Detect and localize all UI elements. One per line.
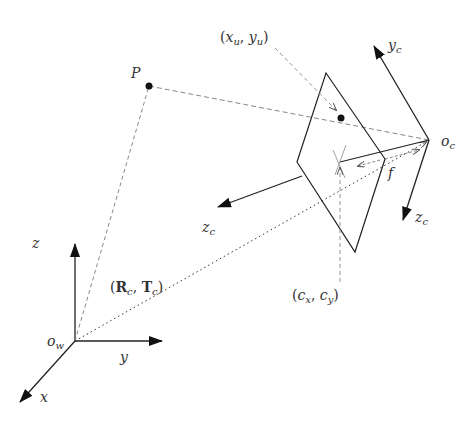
camera-z-axis-down <box>403 140 429 220</box>
R-base: R <box>115 279 127 295</box>
zc-down-sub: c <box>422 216 428 227</box>
camera-z-axis-left <box>218 176 302 207</box>
focal-length-arrow-left <box>358 160 380 166</box>
label-P: P <box>131 66 140 80</box>
paren-close: ) <box>263 29 268 45</box>
yc-sub: c <box>396 44 402 55</box>
zc-left-sub: c <box>209 226 215 237</box>
ext-close: ) <box>158 279 163 295</box>
yu-base: y <box>249 29 257 45</box>
wz-text: z <box>32 235 39 251</box>
camera-y-axis <box>374 46 429 140</box>
image-plane <box>297 73 385 252</box>
wy-text: y <box>120 349 128 365</box>
wx-text: x <box>40 389 48 405</box>
label-camera-y: yc <box>388 38 402 55</box>
label-projected-point: (xu, yu) <box>220 30 269 47</box>
label-world-y: y <box>120 350 128 364</box>
label-camera-z-down: zc <box>415 210 428 227</box>
label-world-z: z <box>32 236 39 250</box>
ext-sep: , <box>133 279 142 295</box>
label-principal-point: (cx, cy) <box>292 288 339 305</box>
projected-point <box>338 115 345 122</box>
pp-close: ) <box>333 287 338 303</box>
projected-point-leader <box>275 48 336 110</box>
camera-model-diagram <box>0 0 476 424</box>
label-extrinsics: (Rc, Tc) <box>110 280 163 297</box>
projection-ray <box>149 86 429 140</box>
pp-sep: , <box>311 287 320 303</box>
principal-cross-2 <box>335 145 346 175</box>
extrinsic-transform-line <box>75 142 426 341</box>
world-axes <box>20 244 162 402</box>
label-world-origin: ow <box>47 334 64 351</box>
f-text: f <box>388 165 393 181</box>
sep: , <box>240 29 249 45</box>
label-camera-z-left: zc <box>202 220 215 237</box>
label-world-x: x <box>40 390 48 404</box>
point-P <box>146 83 153 90</box>
label-P-text: P <box>131 65 140 81</box>
focal-length-arrow-right <box>385 150 419 159</box>
world-to-P-ray <box>75 86 149 341</box>
oc-sub: c <box>449 140 455 151</box>
ow-sub: w <box>55 340 64 351</box>
yc-base: y <box>388 37 396 53</box>
cy-base: c <box>320 287 328 303</box>
label-camera-origin: oc <box>441 134 455 151</box>
T-base: T <box>142 279 152 295</box>
label-focal-length: f <box>388 166 393 180</box>
